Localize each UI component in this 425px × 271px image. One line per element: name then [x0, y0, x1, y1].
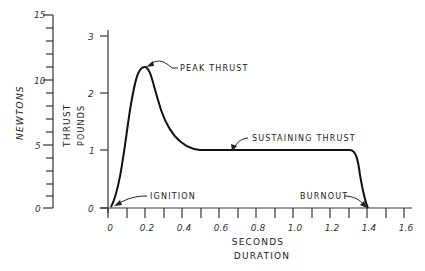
- svg-text:IGNITION: IGNITION: [150, 192, 196, 201]
- svg-text:PEAK THRUST: PEAK THRUST: [180, 64, 249, 73]
- x-axis: [100, 208, 412, 218]
- y-tick-0: 0: [88, 204, 94, 214]
- annotation-sustaining-thrust: SUSTAINING THRUST: [231, 134, 356, 151]
- newtons-tick-0: 0: [35, 204, 41, 214]
- x-axis-secondary-label: DURATION: [234, 251, 290, 261]
- thrust-duration-chart: 15 10 5 0 NEWTONS THRUST POUNDS 3 2 1 0: [0, 0, 425, 271]
- x-tick-1.0: 1.0: [288, 223, 303, 233]
- annotation-peak-thrust: PEAK THRUST: [146, 61, 249, 73]
- x-tick-0.2: 0.2: [140, 223, 155, 233]
- newtons-tick-5: 5: [35, 141, 41, 151]
- newtons-axis: [43, 15, 53, 208]
- x-tick-1.2: 1.2: [325, 223, 340, 233]
- newtons-tick-10: 10: [34, 76, 46, 86]
- newtons-axis-label: NEWTONS: [15, 85, 25, 140]
- y-tick-1: 1: [89, 146, 95, 156]
- x-axis-label: SECONDS: [232, 237, 285, 247]
- pounds-axis-label: POUNDS: [77, 105, 86, 146]
- y-tick-labels: 3 2 1 0: [88, 32, 95, 214]
- x-tick-labels: 0 0.2 0.4 0.6 0.8 1.0 1.2 1.4 1.6: [107, 223, 413, 233]
- newtons-tick-15: 15: [34, 10, 46, 20]
- x-tick-0.8: 0.8: [251, 223, 266, 233]
- annotation-burnout: BURNOUT: [300, 192, 367, 208]
- x-tick-0.4: 0.4: [177, 223, 192, 233]
- x-tick-1.4: 1.4: [362, 223, 377, 233]
- y-tick-3: 3: [88, 32, 94, 42]
- y-tick-2: 2: [88, 89, 94, 99]
- newtons-tick-labels: 15 10 5 0: [34, 10, 46, 214]
- svg-text:BURNOUT: BURNOUT: [300, 192, 348, 201]
- thrust-axis-label: THRUST: [62, 103, 72, 148]
- x-tick-1.6: 1.6: [399, 223, 414, 233]
- y-axis: [100, 30, 108, 213]
- svg-text:SUSTAINING THRUST: SUSTAINING THRUST: [252, 134, 356, 143]
- annotation-ignition: IGNITION: [114, 192, 196, 206]
- x-tick-0: 0: [107, 223, 113, 233]
- x-tick-0.6: 0.6: [214, 223, 229, 233]
